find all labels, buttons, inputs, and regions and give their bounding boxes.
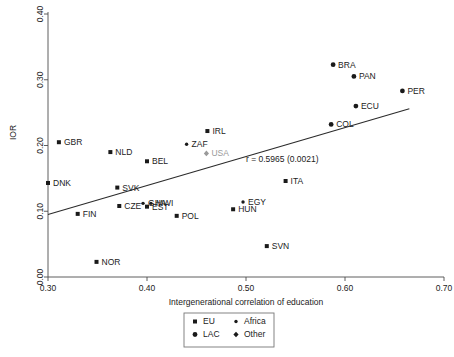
marker-square [193,320,197,324]
marker-square [76,212,80,216]
point-label-usa: USA [211,148,229,158]
data-point-fin: FIN [76,209,97,219]
point-label-col: COL [336,119,354,129]
data-point-svk: SVK [115,183,139,193]
marker-dot [241,200,244,203]
data-point-pan: PAN [352,71,376,81]
x-tick-label: 0.60 [337,283,354,293]
marker-square [46,181,50,185]
marker-square [108,150,112,154]
marker-circle [193,332,198,337]
axes-group: 0.000.100.200.300.400.300.400.500.600.70 [35,5,452,293]
scatter-chart-figure: 0.000.100.200.300.400.300.400.500.600.70… [0,0,454,357]
marker-square [265,244,269,248]
data-point-cze: CZE [117,201,141,211]
legend-label-lac: LAC [203,329,220,339]
marker-square [117,204,121,208]
data-point-zaf: ZAF [185,139,208,149]
data-point-per: PER [400,86,425,96]
data-point-ecu: ECU [353,101,378,111]
data-point-bra: BRA [331,60,356,70]
data-point-dnk: DNK [46,178,71,188]
marker-circle [400,89,405,94]
marker-square [284,179,288,183]
point-label-dnk: DNK [53,178,71,188]
marker-circle [329,122,334,127]
point-label-svn: SVN [272,241,289,251]
point-label-svk: SVK [122,183,139,193]
point-label-mwi: MWI [156,198,173,208]
data-point-svn: SVN [265,241,289,251]
data-point-nld: NLD [108,147,132,157]
data-points-group: DNKGBRFINNORNLDSVKCZEBELESTGHAMWIPOLZAFI… [46,60,425,267]
marker-square [115,186,119,190]
data-point-col: COL [329,119,354,129]
data-point-gbr: GBR [57,137,82,147]
point-label-ita: ITA [291,176,304,186]
marker-circle [331,62,336,67]
x-axis-title: Intergenerational correlation of educati… [169,297,324,307]
data-point-nor: NOR [95,257,121,267]
marker-diamond [204,151,209,157]
chart-legend: EUAfricaLACOther [184,313,274,347]
y-tick-label: 0.10 [35,203,45,220]
data-point-bel: BEL [145,156,168,166]
marker-square [145,159,149,163]
correlation-annotation: r = 0.5965 (0.0021) [246,154,319,164]
marker-square [175,214,179,218]
axis-titles-group: Intergenerational correlation of educati… [8,125,324,307]
trend-line-group [48,109,409,215]
point-label-pan: PAN [359,71,376,81]
marker-circle [353,104,358,109]
x-tick-label: 0.70 [436,283,453,293]
marker-square [231,207,235,211]
y-tick-label: 0.20 [35,137,45,154]
point-label-per: PER [407,86,424,96]
marker-square [95,260,99,264]
point-label-cze: CZE [124,201,141,211]
x-tick-label: 0.40 [139,283,156,293]
point-label-nor: NOR [102,257,121,267]
marker-dot [141,202,144,205]
point-label-pol: POL [182,211,199,221]
marker-square [57,140,61,144]
y-axis-title: IOR [8,125,18,140]
point-label-ecu: ECU [361,101,379,111]
regression-trend-line [48,109,409,215]
marker-dot [149,202,152,205]
point-label-gbr: GBR [64,137,82,147]
legend-label-other: Other [244,329,265,339]
legend-label-eu: EU [203,316,215,326]
data-point-pol: POL [175,211,199,221]
point-label-bel: BEL [152,156,168,166]
marker-square [205,129,209,133]
x-tick-label: 0.50 [238,283,255,293]
point-label-irl: IRL [212,126,226,136]
data-point-irl: IRL [205,126,226,136]
chart-canvas: 0.000.100.200.300.400.300.400.500.600.70… [0,0,454,357]
x-tick-label: 0.30 [40,283,57,293]
y-tick-label: 0.30 [35,71,45,88]
y-tick-label: 0.40 [35,5,45,22]
point-label-fin: FIN [83,209,97,219]
legend-label-africa: Africa [244,316,266,326]
marker-dot [234,320,237,323]
point-label-zaf: ZAF [192,139,208,149]
point-label-nld: NLD [115,147,132,157]
correlation-annotation-group: r = 0.5965 (0.0021) [246,154,319,164]
marker-dot [185,142,188,145]
point-label-egy: EGY [248,197,266,207]
data-point-ita: ITA [284,176,304,186]
point-label-bra: BRA [338,60,356,70]
marker-circle [352,74,357,79]
data-point-usa: USA [204,148,229,158]
